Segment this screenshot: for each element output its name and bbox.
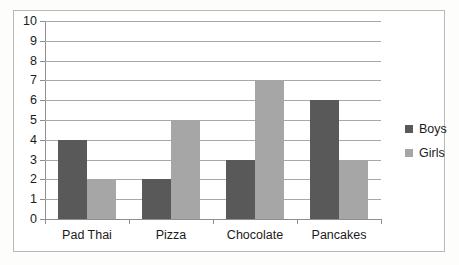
plot-area: 012345678910 Pad ThaiPizzaChocolatePanca… (45, 21, 381, 219)
y-tick-label: 6 (30, 94, 37, 107)
y-tick-label: 8 (30, 54, 37, 67)
bar-girls (255, 80, 284, 219)
y-tick-mark (40, 140, 45, 141)
x-tick-mark (129, 219, 130, 224)
bar-group (226, 21, 284, 219)
y-tick-mark (40, 61, 45, 62)
bar-girls (171, 120, 200, 219)
x-tick-mark (381, 219, 382, 224)
bar-boys (142, 179, 171, 219)
x-tick-mark (213, 219, 214, 224)
bar-group (58, 21, 116, 219)
y-tick-label: 2 (30, 173, 37, 186)
y-tick-label: 3 (30, 153, 37, 166)
y-tick-label: 9 (30, 35, 37, 48)
chart-legend: BoysGirls (405, 123, 447, 170)
bar-boys (226, 160, 255, 219)
legend-label: Girls (419, 147, 445, 160)
legend-item-girls[interactable]: Girls (405, 147, 447, 160)
bar-boys (58, 140, 87, 219)
x-axis-category-label: Chocolate (227, 229, 283, 242)
y-tick-mark (40, 179, 45, 180)
y-tick-label: 5 (30, 114, 37, 127)
legend-swatch-icon (405, 125, 413, 133)
y-tick-label: 7 (30, 74, 37, 87)
y-tick-label: 1 (30, 193, 37, 206)
y-tick-mark (40, 199, 45, 200)
y-tick-mark (40, 21, 45, 22)
y-tick-label: 0 (30, 213, 37, 226)
x-tick-mark (297, 219, 298, 224)
y-tick-mark (40, 120, 45, 121)
y-tick-mark (40, 100, 45, 101)
chart-frame: 012345678910 Pad ThaiPizzaChocolatePanca… (13, 10, 445, 252)
x-axis-category-label: Pancakes (312, 229, 367, 242)
bar-group (310, 21, 368, 219)
legend-label: Boys (419, 123, 447, 136)
bar-girls (339, 160, 368, 219)
y-tick-label: 10 (23, 15, 37, 28)
y-tick-mark (40, 41, 45, 42)
bar-boys (310, 100, 339, 219)
x-tick-mark (45, 219, 46, 224)
x-axis-category-label: Pizza (156, 229, 187, 242)
y-tick-mark (40, 160, 45, 161)
legend-swatch-icon (405, 149, 413, 157)
y-tick-label: 4 (30, 134, 37, 147)
bar-girls (87, 179, 116, 219)
legend-item-boys[interactable]: Boys (405, 123, 447, 136)
x-axis-category-label: Pad Thai (62, 229, 112, 242)
bar-group (142, 21, 200, 219)
y-tick-mark (40, 80, 45, 81)
